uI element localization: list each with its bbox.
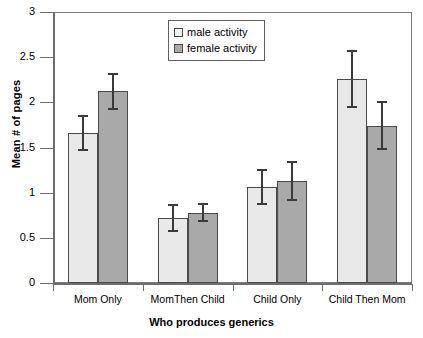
error-bar-male-1	[168, 204, 178, 231]
y-tick-mark	[40, 283, 53, 284]
error-bar-stem	[351, 50, 353, 108]
legend-swatch-female-icon	[174, 44, 183, 53]
y-tick-label: 2	[1, 96, 35, 107]
y-tick-label: 3	[1, 6, 35, 17]
legend-item-female: female activity	[174, 40, 257, 56]
y-axis-line	[53, 12, 55, 284]
y-tick-mark	[40, 238, 53, 239]
y-tick-label: 0	[1, 277, 35, 288]
x-axis-title: Who produces generics	[0, 316, 423, 328]
error-bar-cap-bottom	[78, 149, 88, 151]
y-tick-mark	[40, 12, 53, 13]
y-axis-title: Mean # of pages	[10, 64, 22, 184]
y-tick-label: 0.5	[1, 232, 35, 243]
error-bar-cap-top	[287, 161, 297, 163]
y-tick-label: 1	[1, 187, 35, 198]
error-bar-cap-top	[198, 203, 208, 205]
error-bar-stem	[172, 204, 174, 231]
error-bar-cap-top	[108, 73, 118, 75]
error-bar-female-3	[377, 101, 387, 150]
bar-male-3	[337, 79, 367, 283]
x-tick-mark	[233, 284, 234, 291]
error-bar-cap-top	[78, 115, 88, 117]
error-bar-cap-top	[377, 101, 387, 103]
y-tick-label: 1.5	[1, 142, 35, 153]
error-bar-cap-top	[257, 169, 267, 171]
error-bar-stem	[291, 161, 293, 201]
x-tick-label-3: Child Then Mom	[307, 293, 423, 305]
error-bar-cap-bottom	[377, 148, 387, 150]
y-tick-mark	[40, 193, 53, 194]
x-tick-mark	[412, 284, 413, 291]
bar-female-1	[188, 213, 218, 283]
x-tick-mark	[322, 284, 323, 291]
error-bar-cap-bottom	[198, 220, 208, 222]
error-bar-male-2	[257, 169, 267, 205]
error-bar-cap-top	[347, 50, 357, 52]
error-bar-cap-top	[168, 204, 178, 206]
error-bar-male-3	[347, 50, 357, 108]
error-bar-stem	[112, 73, 114, 111]
error-bar-female-2	[287, 161, 297, 201]
error-bar-cap-bottom	[168, 230, 178, 232]
error-bar-female-1	[198, 203, 208, 223]
legend-item-male: male activity	[174, 24, 257, 40]
legend-swatch-male-icon	[174, 28, 183, 37]
x-tick-mark	[143, 284, 144, 291]
error-bar-female-0	[108, 73, 118, 111]
y-tick-label: 2.5	[1, 51, 35, 62]
legend: male activity female activity	[168, 20, 265, 61]
bar-male-0	[68, 133, 98, 283]
x-tick-mark	[53, 284, 54, 291]
y-tick-mark	[40, 57, 53, 58]
error-bar-male-0	[78, 115, 88, 151]
legend-label-female: female activity	[187, 42, 257, 54]
bar-female-0	[98, 91, 128, 283]
bar-chart: Mean # of pages 00.511.522.53 Mom OnlyMo…	[0, 0, 423, 338]
error-bar-cap-bottom	[108, 108, 118, 110]
error-bar-stem	[82, 115, 84, 151]
error-bar-stem	[381, 101, 383, 150]
error-bar-stem	[261, 169, 263, 205]
y-tick-mark	[40, 148, 53, 149]
y-tick-mark	[40, 102, 53, 103]
error-bar-cap-bottom	[257, 203, 267, 205]
legend-label-male: male activity	[187, 26, 248, 38]
error-bar-cap-bottom	[287, 199, 297, 201]
error-bar-cap-bottom	[347, 106, 357, 108]
